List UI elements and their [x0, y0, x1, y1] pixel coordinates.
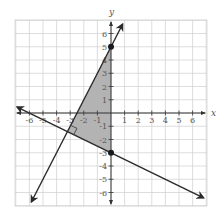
y-tick-label: -2 — [99, 136, 107, 145]
x-tick-label: 6 — [190, 116, 195, 125]
y-tick-label: 6 — [102, 30, 107, 39]
y-tick-label: 2 — [102, 83, 107, 92]
coordinate-graph: -6-5-4-3-2-1123456654321-1-2-3-4-5-6 x y — [0, 0, 222, 216]
point-marker — [108, 150, 114, 156]
x-tick-label: 3 — [149, 116, 154, 125]
y-tick-label: 3 — [102, 69, 107, 78]
y-tick-label: -5 — [99, 175, 107, 184]
x-tick-label: 1 — [122, 116, 127, 125]
x-tick-label: -4 — [53, 116, 61, 125]
point-marker — [108, 44, 114, 50]
y-tick-label: 5 — [102, 43, 107, 52]
y-tick-label: -1 — [99, 122, 107, 131]
x-tick-label: -6 — [26, 116, 34, 125]
x-tick-label: 2 — [136, 116, 141, 125]
y-tick-label: 1 — [102, 96, 107, 105]
x-axis-label: x — [211, 108, 216, 118]
y-axis-label: y — [108, 7, 115, 17]
y-tick-label: -4 — [99, 162, 107, 171]
x-tick-label: 5 — [176, 116, 181, 125]
y-tick-label: -6 — [99, 189, 107, 198]
x-tick-label: 4 — [163, 116, 168, 125]
x-tick-label: -2 — [80, 116, 88, 125]
